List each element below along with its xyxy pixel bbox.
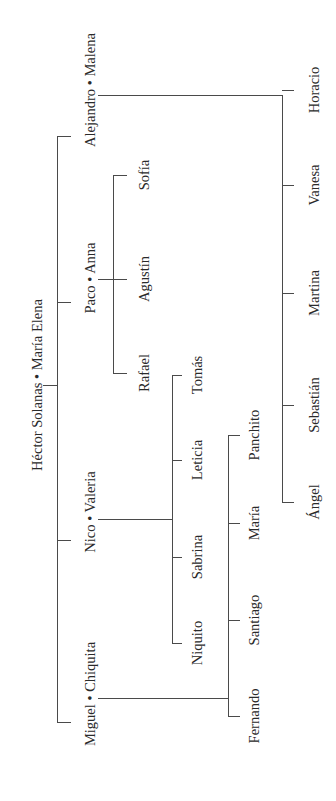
child-label-miguel-1: María: [246, 505, 262, 540]
child-label-paco-1: Agustín: [136, 255, 152, 302]
root-couple-label: Héctor Solanas • María Elena: [29, 299, 45, 471]
child-label-alejandro-0: Horacio: [306, 67, 322, 114]
child-label-miguel-2: Santiago: [246, 595, 262, 646]
person-labels: Héctor Solanas • María Elena Alejandro •…: [29, 33, 322, 747]
child-label-nico-2: Sabrina: [189, 534, 205, 579]
child-label-nico-3: Niquito: [189, 621, 205, 665]
couple-label-paco: Paco • Anna: [82, 242, 98, 314]
child-label-miguel-0: Panchito: [246, 410, 262, 461]
couple-label-miguel: Miguel • Chiquita: [82, 641, 98, 746]
family-tree-diagram: Héctor Solanas • María Elena Alejandro •…: [0, 0, 336, 801]
couple-label-nico: Nico • Valeria: [82, 471, 98, 553]
child-label-nico-0: Tomás: [189, 355, 205, 394]
child-label-alejandro-2: Martina: [306, 269, 322, 315]
couple-label-alejandro: Alejandro • Malena: [82, 33, 98, 147]
child-label-alejandro-4: Ángel: [306, 484, 322, 519]
child-label-nico-1: Leticia: [189, 439, 205, 480]
child-label-paco-0: Sofía: [136, 159, 152, 190]
child-label-alejandro-1: Vanesa: [306, 164, 322, 206]
child-label-paco-2: Rafael: [136, 354, 152, 392]
child-label-alejandro-3: Sebastián: [306, 376, 322, 432]
child-label-miguel-3: Fernando: [246, 689, 262, 744]
